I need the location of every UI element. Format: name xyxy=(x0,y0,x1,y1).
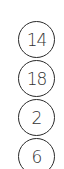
number-circle: 18 xyxy=(18,60,55,97)
number-circle: 2 xyxy=(18,99,55,136)
number-label: 18 xyxy=(27,69,47,89)
number-label: 14 xyxy=(27,30,47,50)
number-circle: 14 xyxy=(18,21,55,58)
number-circle: 6 xyxy=(18,138,55,169)
number-label: 6 xyxy=(32,147,42,167)
number-label: 2 xyxy=(32,108,42,128)
